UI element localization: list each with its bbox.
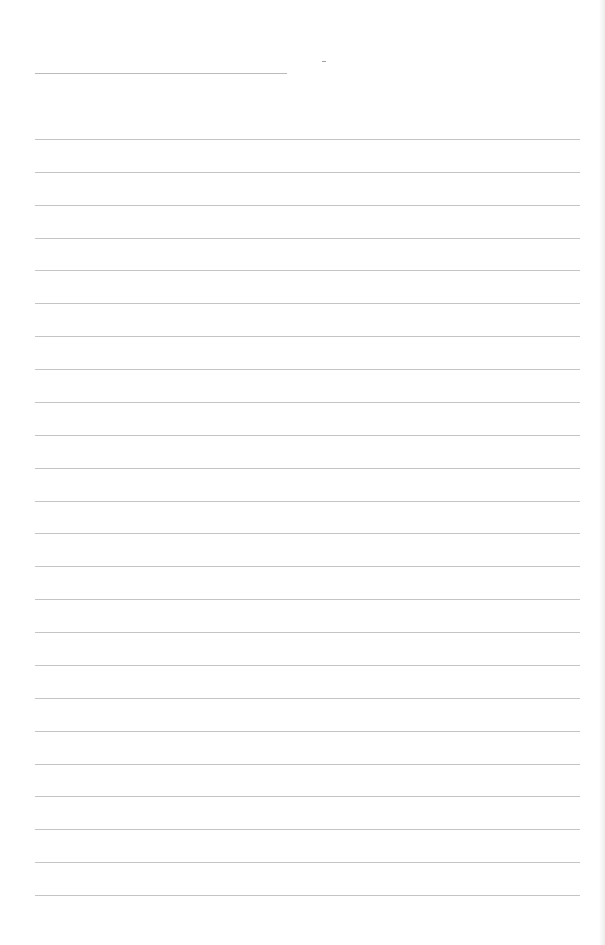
ruled-line [35, 172, 580, 173]
lined-paper-page [0, 0, 605, 945]
ruled-line [35, 205, 580, 206]
ruled-line [35, 632, 580, 633]
ruled-line [35, 303, 580, 304]
ruled-line [35, 501, 580, 502]
ruled-line [35, 566, 580, 567]
ruled-lines [0, 0, 605, 945]
ruled-line [35, 796, 580, 797]
ruled-line [35, 270, 580, 271]
ruled-line [35, 599, 580, 600]
ruled-line [35, 829, 580, 830]
ruled-line [35, 698, 580, 699]
ruled-line [35, 665, 580, 666]
ruled-line [35, 533, 580, 534]
ruled-line [35, 764, 580, 765]
ruled-line [35, 862, 580, 863]
ruled-line [35, 139, 580, 140]
ruled-line [35, 731, 580, 732]
page-edge-shadow [599, 0, 605, 945]
ruled-line [35, 238, 580, 239]
ruled-line [35, 336, 580, 337]
ruled-line [35, 468, 580, 469]
ruled-line [35, 435, 580, 436]
ruled-line [35, 895, 580, 896]
ruled-line [35, 369, 580, 370]
ruled-line [35, 402, 580, 403]
